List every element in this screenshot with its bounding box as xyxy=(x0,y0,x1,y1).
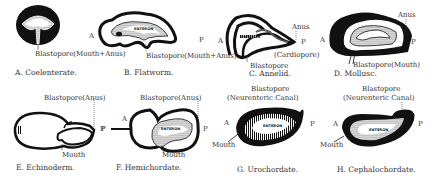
svg-text:P: P xyxy=(101,125,106,133)
svg-text:P: P xyxy=(310,120,315,128)
svg-text:Anus: Anus xyxy=(397,11,416,19)
caption-urochordate: G. Urochordate. xyxy=(237,165,298,174)
panel-flatworm: A ENTERON P Blastopore(Mouth+Anus) B. Fl… xyxy=(88,13,237,77)
svg-text:Blastopore(Mouth): Blastopore(Mouth) xyxy=(353,61,420,69)
svg-text:Blastopore: Blastopore xyxy=(362,85,400,93)
svg-text:A: A xyxy=(223,119,230,127)
svg-text:Blastopore: Blastopore xyxy=(251,85,289,93)
caption-annelid: C. Annelid. xyxy=(249,69,291,78)
svg-text:ENTERON: ENTERON xyxy=(241,35,260,39)
svg-text:A: A xyxy=(88,32,95,40)
caption-coelenterate: A. Coelenterate. xyxy=(14,68,77,77)
embryo-comparison-diagram: Blastopore(Mouth+Anus) A. Coelenterate. … xyxy=(0,0,429,183)
svg-text:ENTERON: ENTERON xyxy=(161,127,180,131)
svg-text:(Cardiopore): (Cardiopore) xyxy=(274,51,320,59)
svg-text:P: P xyxy=(301,38,306,46)
panel-coelenterate: Blastopore(Mouth+Anus) A. Coelenterate. xyxy=(14,5,126,77)
caption-flatworm: B. Flatworm. xyxy=(124,68,173,77)
svg-text:Blastopore(Mouth+Anus): Blastopore(Mouth+Anus) xyxy=(146,52,237,60)
caption-cephalochordate: H. Cephalochordate. xyxy=(337,165,416,174)
svg-text:Blastopore(Anus): Blastopore(Anus) xyxy=(44,94,106,102)
svg-text:ENTERON: ENTERON xyxy=(263,124,282,128)
panel-echinoderm: Blastopore(Anus) P Mouth E. Echinoderm. xyxy=(15,94,106,172)
svg-text:Mouth: Mouth xyxy=(212,141,236,149)
panel-urochordate: Blastopore (Neurenteric Canal) A ENTERON… xyxy=(212,85,315,174)
svg-text:Anus: Anus xyxy=(291,23,310,31)
svg-text:A: A xyxy=(332,120,339,128)
svg-text:ENTERON: ENTERON xyxy=(369,128,388,132)
panel-cephalochordate: Blastopore (Neurenteric Canal) A ENTERON… xyxy=(320,85,423,174)
caption-mollusc: D. Mollusc. xyxy=(334,69,377,78)
label-blastopore: Blastopore(Mouth+Anus) xyxy=(35,50,126,58)
panel-mollusc: A Anus P Blastopore(Mouth) D. Mollusc. xyxy=(319,11,420,78)
svg-text:ENTERON: ENTERON xyxy=(134,27,153,31)
panel-hemichordate: P A ENTERON Blastopore(Anus) P Mouth F. … xyxy=(101,94,208,172)
caption-echinoderm: E. Echinoderm. xyxy=(16,163,75,172)
panel-annelid: A ENTERON Anus P (Cardiopore) Blastopore… xyxy=(217,16,320,78)
svg-text:P: P xyxy=(199,36,204,44)
svg-text:Blastopore(Anus): Blastopore(Anus) xyxy=(140,94,202,102)
svg-text:A: A xyxy=(217,37,224,45)
svg-text:P: P xyxy=(203,125,208,133)
caption-hemichordate: F. Hemichordate. xyxy=(116,163,182,172)
svg-text:(Neurenteric Canal): (Neurenteric Canal) xyxy=(343,94,415,102)
svg-text:P: P xyxy=(418,120,423,128)
svg-text:A: A xyxy=(121,115,128,123)
svg-text:Mouth: Mouth xyxy=(320,141,344,149)
svg-text:Mouth: Mouth xyxy=(62,151,86,159)
svg-text:A: A xyxy=(319,36,326,44)
svg-text:P: P xyxy=(411,38,416,46)
svg-text:Mouth: Mouth xyxy=(162,151,186,159)
svg-text:(Neurenteric Canal): (Neurenteric Canal) xyxy=(227,94,299,102)
